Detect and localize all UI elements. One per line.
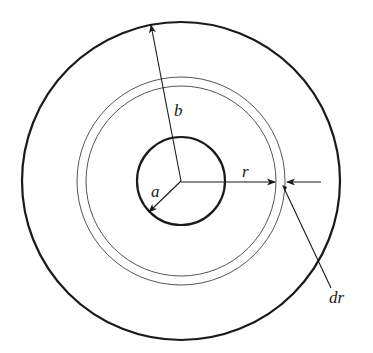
label-a: a — [151, 182, 160, 201]
coaxial-diagram: b a r dr — [0, 0, 373, 353]
dr-leader-line — [284, 188, 331, 288]
label-r: r — [242, 162, 249, 181]
label-dr: dr — [329, 288, 345, 307]
label-b: b — [174, 101, 183, 120]
diagram-canvas: b a r dr — [0, 0, 373, 353]
